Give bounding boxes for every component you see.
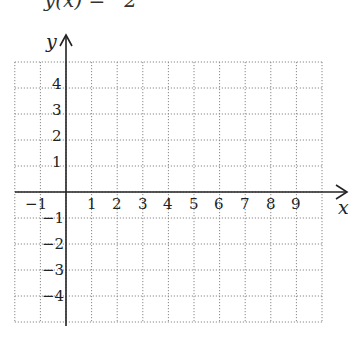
y-tick-labels: 4 3 2 1 −1 −2 −3 −4 [42,75,64,305]
y-tick: 3 [52,101,62,119]
y-tick: 1 [52,153,62,171]
y-tick: −4 [42,287,64,305]
x-tick: 4 [163,195,173,213]
y-tick: −2 [42,235,64,253]
x-tick: 7 [240,195,250,213]
x-tick: 6 [214,195,224,213]
x-axis-label: x [338,196,349,218]
y-tick: 4 [52,75,62,93]
x-tick: 5 [189,195,199,213]
y-axis [60,35,72,326]
y-tick: −1 [42,209,64,227]
x-tick: 1 [87,195,97,213]
x-tick: 8 [266,195,276,213]
x-tick: 9 [291,195,301,213]
y-tick: −3 [42,261,64,279]
coordinate-plane: y x −1 1 2 3 4 5 6 7 8 9 4 3 2 1 −1 −2 −… [0,0,363,339]
y-axis-label: y [45,30,57,52]
y-tick: 2 [52,127,62,145]
x-tick: 2 [112,195,122,213]
x-tick: 3 [138,195,148,213]
